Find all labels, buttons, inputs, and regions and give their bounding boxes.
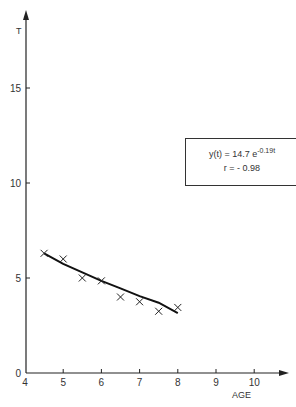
x-axis-arrow-icon	[279, 370, 289, 376]
y-tick-label: 0	[15, 368, 21, 379]
x-tick-label: 6	[99, 377, 105, 388]
x-axis-title: AGE	[232, 390, 251, 400]
y-tick-label: 10	[10, 178, 22, 189]
y-tick-label: 5	[15, 273, 21, 284]
chart-canvas: 45678910 051015 T AGE	[0, 0, 296, 407]
correlation-text: r = - 0.98	[186, 161, 296, 175]
x-tick-label: 9	[213, 377, 219, 388]
y-ticks: 051015	[10, 83, 30, 379]
x-tick-label: 7	[137, 377, 143, 388]
x-ticks: 45678910	[22, 369, 260, 388]
y-axis-arrow-icon	[23, 10, 29, 20]
equation-text: y(t) = 14.7 e-0.19t	[186, 147, 296, 161]
y-tick-label: 15	[10, 83, 22, 94]
x-tick-label: 10	[249, 377, 261, 388]
x-tick-label: 5	[60, 377, 66, 388]
data-markers	[41, 250, 182, 315]
fit-curve	[44, 253, 178, 313]
equation-box: y(t) = 14.7 e-0.19t r = - 0.98	[185, 138, 296, 186]
x-tick-label: 4	[22, 377, 28, 388]
x-tick-label: 8	[175, 377, 181, 388]
y-axis-title: T	[16, 26, 22, 36]
